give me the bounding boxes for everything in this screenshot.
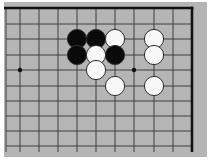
- board-surface: [4, 2, 207, 157]
- go-problem-diagram: [0, 0, 211, 163]
- black-stone: [105, 45, 124, 64]
- black-stone: [67, 45, 86, 64]
- star-point: [18, 68, 22, 72]
- white-stone: [105, 76, 124, 95]
- go-board: [0, 0, 211, 163]
- star-point: [132, 68, 136, 72]
- white-stone: [144, 76, 163, 95]
- white-stone: [86, 60, 105, 79]
- white-stone: [144, 45, 163, 64]
